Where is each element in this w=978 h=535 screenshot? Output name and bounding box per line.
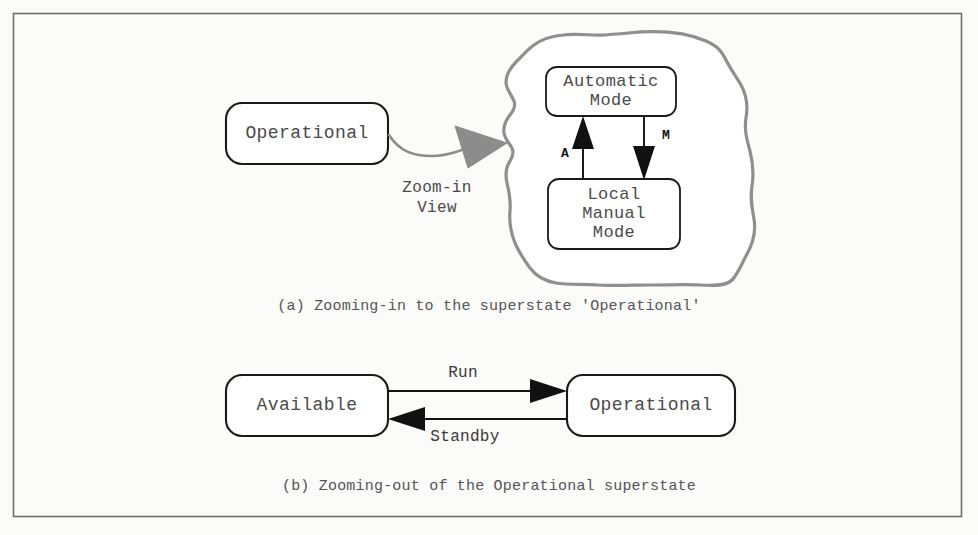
state-operational-box[interactable]	[567, 375, 735, 436]
superstate-operational-box[interactable]	[226, 103, 388, 164]
transition-standby-label: Standby	[400, 428, 530, 446]
zoom-in-view-label-line2: View	[372, 198, 502, 218]
state-local-manual-mode-box[interactable]	[548, 179, 680, 249]
transition-run-arrowhead	[530, 379, 567, 403]
zoom-in-arrowhead	[455, 126, 507, 168]
caption-panel-a: (a) Zooming-in to the superstate 'Operat…	[0, 298, 978, 316]
state-automatic-mode-box[interactable]	[546, 67, 676, 116]
diagram-canvas	[0, 0, 978, 535]
zoom-in-view-label-line1: Zoom-in	[372, 178, 502, 198]
transition-a-label: A	[556, 147, 574, 161]
state-available-box[interactable]	[226, 375, 388, 436]
caption-panel-b: (b) Zooming-out of the Operational super…	[0, 478, 978, 496]
transition-run-label: Run	[411, 364, 515, 382]
transition-m-label: M	[657, 129, 675, 143]
figure-container: Operational Zoom-in View Automatic Mode …	[0, 0, 978, 535]
